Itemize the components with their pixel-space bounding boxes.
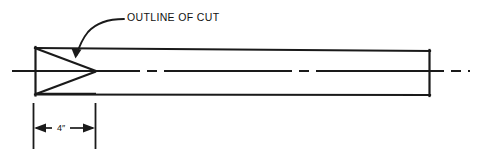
cut-leader-group bbox=[72, 19, 125, 59]
dimension-value-label: 4″ bbox=[57, 123, 66, 133]
drawing-svg: OUTLINE OF CUT 4″ bbox=[0, 0, 492, 161]
cut-leader-arrowhead bbox=[72, 49, 82, 59]
outline-of-cut-label: OUTLINE OF CUT bbox=[127, 11, 220, 23]
cut-diagonal-upper bbox=[36, 49, 96, 72]
dimension-group: 4″ bbox=[34, 103, 96, 149]
cut-diagonal-lower bbox=[36, 72, 96, 95]
dimension-arrowhead-right bbox=[83, 124, 95, 133]
technical-drawing-canvas: OUTLINE OF CUT 4″ bbox=[0, 0, 492, 161]
dimension-arrowhead-left bbox=[34, 124, 46, 133]
workpiece-top-edge bbox=[35, 48, 430, 51]
